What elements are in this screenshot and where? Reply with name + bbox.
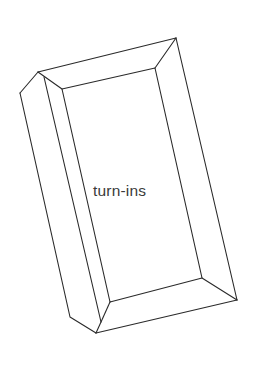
book-diagram: turn-ins [0,0,262,375]
miter-top-left [38,72,62,89]
cover-left-edge [44,77,101,333]
miter-bottom-right [202,278,237,300]
spine-outer-edge [20,93,96,333]
spine-top-bevel [20,72,38,93]
cover-right-edge [176,38,237,300]
turn-ins-label: turn-ins [93,182,163,200]
miter-bottom-left [101,302,110,322]
cover-bottom-edge [96,300,237,333]
